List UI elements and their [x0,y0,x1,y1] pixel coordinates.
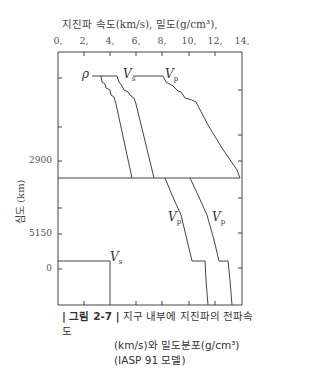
caption-line-3: (IASP 91 모델) [62,353,260,368]
vp-core-right-label: Vp [212,210,225,226]
vs-mantle-label: Vs [123,67,135,83]
rho-core-curve [165,178,208,305]
vp-core-curve [190,178,232,305]
vp-mantle-label: Vp [165,67,178,83]
vs-inner-core-curve [58,261,110,305]
vp-core-left-label: Vp [168,210,181,226]
figure-number: | 그림 2-7 | [62,310,120,322]
figure-caption: | 그림 2-7 | 지구 내부에 지진파의 전파속도 (km/s)와 밀도분포… [62,309,260,367]
rho-label: ρ [82,67,89,81]
vs-mantle-curve [101,76,154,178]
vs-inner-core-label: Vs [110,250,122,266]
vp-mantle-curve [163,76,240,178]
caption-line-2: (km/s)와 밀도분포(g/cm³) [62,338,260,353]
